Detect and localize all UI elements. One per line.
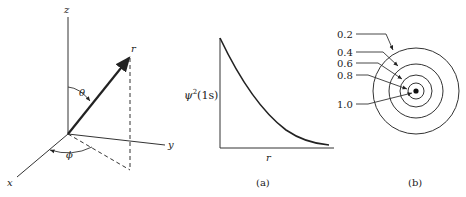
- x-axis: [17, 134, 68, 177]
- leader-0.6: [356, 63, 402, 79]
- panel-a-plot: ψ2(1s) r (a): [184, 38, 334, 188]
- plot-xlabel: r: [266, 152, 272, 163]
- x-axis-label: x: [7, 177, 13, 188]
- ylabel-psi: ψ: [184, 89, 193, 102]
- r-vector: [68, 58, 129, 134]
- contour-label-0.8: 0.8: [337, 70, 353, 81]
- leader-1.0: [356, 93, 412, 104]
- plot-ylabel: ψ2(1s): [184, 88, 218, 102]
- theta-label: θ: [79, 87, 85, 98]
- contour-label-1.0: 1.0: [337, 99, 353, 110]
- contour-label-0.2: 0.2: [337, 29, 353, 40]
- figure-canvas: z y x r θ ϕ ψ2(1s) r (a) 0.2 0.4 0.6 0.8…: [0, 0, 466, 197]
- leader-0.4: [356, 52, 398, 66]
- y-axis-label: y: [167, 139, 174, 150]
- leader-0.2: [356, 34, 393, 50]
- panel-b-contours: 0.2 0.4 0.6 0.8 1.0 (b): [337, 29, 459, 188]
- z-axis-label: z: [63, 4, 70, 15]
- decay-curve: [220, 38, 329, 145]
- panel-b-caption: (b): [408, 177, 422, 188]
- contour-label-0.4: 0.4: [337, 47, 353, 58]
- y-axis: [68, 134, 165, 145]
- ylabel-orbital: (1s): [197, 89, 218, 102]
- panel-a-caption: (a): [256, 177, 270, 188]
- phi-label: ϕ: [66, 149, 73, 160]
- r-vector-label: r: [131, 43, 137, 54]
- contour-label-0.6: 0.6: [337, 58, 353, 69]
- nucleus-dot: [413, 88, 418, 93]
- spherical-coordinate-diagram: z y x r θ ϕ: [7, 4, 174, 188]
